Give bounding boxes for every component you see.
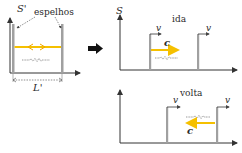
frame-label-s-prime: S'	[17, 4, 27, 14]
velocity-label: v	[206, 24, 211, 33]
velocity-label: v	[173, 96, 178, 105]
velocity-label: v	[225, 96, 230, 105]
mirror-left	[12, 24, 15, 73]
wave-packet-icon	[186, 116, 210, 119]
wave-packet-icon	[155, 57, 178, 60]
bottom-right-panel	[120, 90, 237, 143]
left-panel	[10, 17, 80, 82]
mirrors-label: espelhos	[34, 8, 74, 17]
wave-packet-icon	[22, 59, 50, 62]
mirror-left	[166, 107, 168, 143]
transition-arrow-icon	[88, 43, 103, 54]
phase-label-ida: ida	[172, 15, 186, 24]
mirror-right	[61, 24, 64, 73]
length-label: L'	[33, 83, 42, 93]
mirror-left	[149, 34, 151, 70]
mirror-right	[197, 34, 199, 70]
mirror-right	[216, 107, 218, 143]
light-speed-label: c	[187, 126, 193, 136]
mirror-pointer-left	[17, 17, 35, 28]
phase-label-volta: volta	[180, 89, 202, 98]
frame-label-s: S	[116, 6, 123, 16]
mirror-pointer-right	[55, 17, 61, 28]
velocity-label: v	[156, 24, 161, 33]
light-speed-label: c	[164, 38, 170, 48]
